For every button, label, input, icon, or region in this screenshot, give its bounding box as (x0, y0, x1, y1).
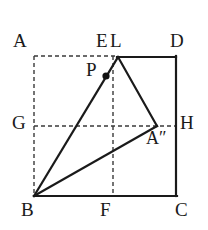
point-marker-P (102, 72, 109, 79)
vertex-label-p: P (86, 60, 97, 79)
vertex-label-a: A (13, 31, 27, 50)
vertex-label-e: E (96, 31, 108, 50)
vertex-label-g: G (12, 113, 26, 132)
vertex-label-a-double-prime: A″ (146, 129, 167, 147)
solid-segment-L-Adoubleprime (118, 57, 157, 126)
vertex-label-b: B (21, 200, 34, 219)
vertex-label-f: F (100, 200, 111, 219)
solid-segment-B-Adoubleprime (34, 126, 157, 196)
vertex-label-d: D (170, 31, 184, 50)
vertex-label-l: L (110, 31, 122, 50)
vertex-label-h: H (180, 113, 194, 132)
vertex-label-c: C (175, 200, 188, 219)
geometry-figure: A E L D P G H A″ B F C (0, 0, 208, 230)
